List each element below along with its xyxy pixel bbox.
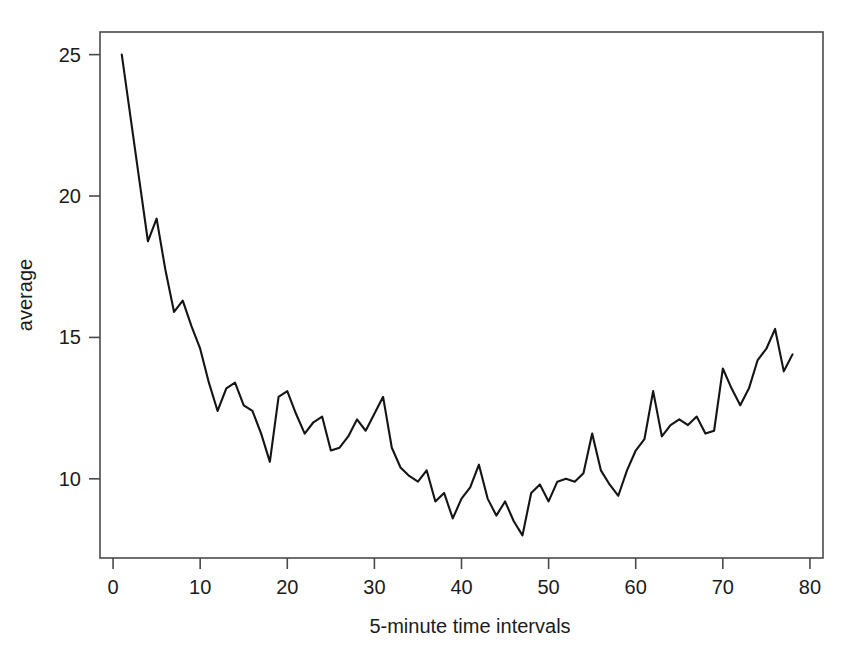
- y-tick-label: 10: [59, 468, 81, 490]
- x-tick-label: 60: [625, 576, 647, 598]
- x-tick-label: 30: [363, 576, 385, 598]
- y-axis-title: average: [14, 259, 36, 331]
- x-tick-label: 70: [712, 576, 734, 598]
- x-axis-title: 5-minute time intervals: [369, 615, 570, 637]
- line-chart: 01020304050607080 10152025 5-minute time…: [0, 0, 858, 657]
- y-tick-label: 25: [59, 44, 81, 66]
- x-tick-label: 10: [189, 576, 211, 598]
- x-tick-label: 0: [108, 576, 119, 598]
- y-tick-label: 15: [59, 326, 81, 348]
- x-tick-label: 50: [537, 576, 559, 598]
- x-tick-label: 20: [276, 576, 298, 598]
- x-tick-label: 40: [450, 576, 472, 598]
- x-tick-label: 80: [799, 576, 821, 598]
- chart-figure: 01020304050607080 10152025 5-minute time…: [0, 0, 858, 657]
- y-tick-label: 20: [59, 185, 81, 207]
